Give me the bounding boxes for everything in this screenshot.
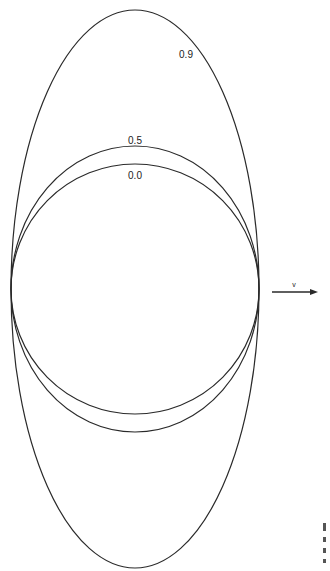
curve-0-5 (11, 146, 259, 432)
curve-0-0 (11, 164, 259, 414)
edge-mark (323, 537, 326, 542)
edge-mark (323, 548, 326, 553)
edge-marks (323, 523, 326, 569)
velocity-arrow-icon (272, 289, 318, 295)
curve-0-9 (11, 10, 259, 568)
velocity-label: v (292, 281, 296, 288)
curve-label-0-9: 0.9 (179, 49, 193, 60)
edge-mark (323, 559, 326, 563)
edge-mark (323, 523, 326, 531)
curve-label-0-0: 0.0 (128, 170, 142, 181)
curve-label-0-5: 0.5 (128, 135, 142, 146)
ellipse-diagram: 0.0 0.5 0.9 v (0, 0, 330, 571)
